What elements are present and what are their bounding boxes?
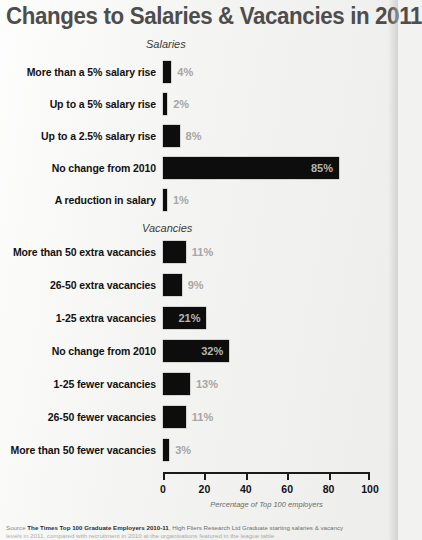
axis-tick-label: 0 (160, 483, 166, 495)
bar-row: More than 50 fewer vacancies3% (0, 438, 398, 462)
bar-value-label: 13% (196, 378, 218, 390)
bar-category-label: Up to a 5% salary rise (0, 98, 156, 110)
bar-row: No change from 201032% (0, 339, 398, 363)
bar-row: A reduction in salary1% (0, 188, 398, 212)
axis-tick (163, 472, 165, 480)
bar-row: 1-25 extra vacancies21% (0, 306, 398, 330)
bar-row: 26-50 extra vacancies9% (0, 273, 398, 297)
bar-category-label: More than 50 extra vacancies (0, 246, 156, 258)
axis-tick-label: 80 (323, 483, 335, 495)
bar (163, 61, 171, 83)
axis-tick (204, 472, 206, 480)
bar-value-label: 9% (188, 279, 204, 291)
bar-value-label: 4% (177, 66, 193, 78)
bar-category-label: No change from 2010 (0, 345, 156, 357)
bar-category-label: A reduction in salary (0, 194, 156, 206)
bar-value-label: 32% (201, 345, 223, 357)
axis-tick (368, 472, 370, 480)
bar-row: More than 50 extra vacancies11% (0, 240, 398, 264)
source-footer: Source The Times Top 100 Graduate Employ… (6, 524, 398, 540)
bar-category-label: No change from 2010 (0, 162, 156, 174)
bar (163, 189, 167, 211)
axis-line (163, 472, 370, 474)
section-header-vacancies: Vacancies (142, 222, 192, 234)
bar (163, 125, 180, 147)
axis-tick-label: 60 (281, 483, 293, 495)
axis-caption: Percentage of Top 100 employers (163, 500, 370, 509)
bar (163, 439, 169, 461)
axis-tick-label: 100 (361, 483, 379, 495)
bar (163, 406, 186, 428)
source-note: Graduate starting salaries & vacancy (240, 524, 343, 531)
bar-row: Up to a 2.5% salary rise8% (0, 124, 398, 148)
bar (163, 373, 190, 395)
bar-value-label: 11% (192, 246, 213, 258)
axis-tick-label: 20 (199, 483, 211, 495)
bar-row: More than a 5% salary rise4% (0, 60, 398, 84)
bar-category-label: 1-25 fewer vacancies (0, 378, 156, 390)
bar-value-label: 21% (178, 312, 200, 324)
bar-row: 1-25 fewer vacancies13% (0, 372, 398, 396)
bar-row: No change from 201085% (0, 156, 398, 180)
bar (163, 241, 186, 263)
page-title: Changes to Salaries & Vacancies in 2011 (6, 2, 422, 30)
bar-value-label: 3% (175, 444, 191, 456)
bar-value-label: 85% (311, 162, 333, 174)
bar-value-label: 2% (173, 98, 189, 110)
bar-value-label: 11% (192, 411, 213, 423)
bar-value-label: 8% (186, 130, 202, 142)
bar-row: 26-50 fewer vacancies11% (0, 405, 398, 429)
source-publisher: , High Fliers Research Ltd (169, 524, 241, 531)
section-header-salaries: Salaries (146, 38, 186, 50)
source-note-line2: levels in 2011, compared with recruitmen… (6, 532, 398, 540)
bar-category-label: Up to a 2.5% salary rise (0, 130, 156, 142)
bar (163, 274, 182, 296)
bar-category-label: More than 50 fewer vacancies (0, 444, 156, 456)
axis-tick-label: 40 (240, 483, 252, 495)
bar-row: Up to a 5% salary rise2% (0, 92, 398, 116)
bar-category-label: 26-50 fewer vacancies (0, 411, 156, 423)
axis-tick (246, 472, 248, 480)
axis-tick (287, 472, 289, 480)
bar-category-label: 1-25 extra vacancies (0, 312, 156, 324)
x-axis: 020406080100 (163, 472, 370, 480)
bar-category-label: More than a 5% salary rise (0, 66, 156, 78)
bar-category-label: 26-50 extra vacancies (0, 279, 156, 291)
bar-value-label: 1% (173, 194, 189, 206)
bar (163, 93, 167, 115)
source-lead: Source (6, 524, 26, 531)
source-publication: The Times Top 100 Graduate Employers 201… (27, 524, 168, 531)
axis-tick (329, 472, 331, 480)
